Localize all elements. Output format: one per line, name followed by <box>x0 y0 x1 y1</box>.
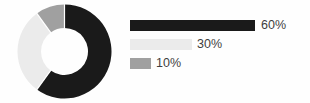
donut-chart-figure: 60% 30% 10% <box>0 0 310 103</box>
legend-value-label: 10% <box>156 55 181 72</box>
legend-item[interactable]: 30% <box>130 36 310 55</box>
legend-value-label: 60% <box>261 17 286 34</box>
legend-value-label: 30% <box>197 36 222 53</box>
legend-swatch-bar <box>130 58 151 69</box>
legend-item[interactable]: 60% <box>130 17 310 36</box>
legend-swatch-bar <box>130 20 255 31</box>
donut-chart-svg <box>17 4 112 99</box>
legend-item[interactable]: 10% <box>130 55 310 74</box>
donut-chart <box>17 4 112 99</box>
chart-legend: 60% 30% 10% <box>130 17 310 74</box>
legend-swatch-bar <box>130 39 192 50</box>
